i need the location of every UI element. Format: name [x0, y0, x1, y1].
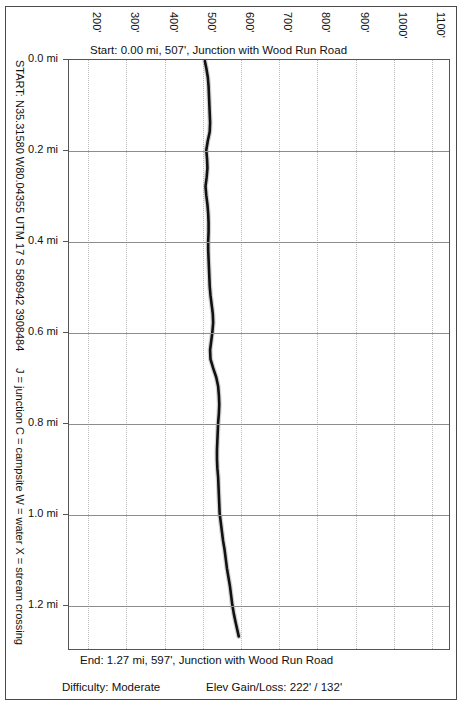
distance-gridline [69, 151, 449, 152]
distance-tick-label: 0.4 mi [28, 234, 58, 246]
distance-tick-mark [63, 605, 68, 606]
elevation-tick-label: 300' [129, 12, 141, 32]
distance-tick-label: 0.2 mi [28, 143, 58, 155]
elevation-gain-loss-label: Elev Gain/Loss: 222' / 132' [206, 681, 342, 693]
elevation-gridline [394, 60, 395, 649]
distance-gridline [69, 333, 449, 334]
distance-gridline [69, 242, 449, 243]
start-caption: Start: 0.00 mi, 507', Junction with Wood… [90, 44, 347, 56]
distance-gridline [69, 424, 449, 425]
distance-tick-label: 0.6 mi [28, 325, 58, 337]
end-caption: End: 1.27 mi, 597', Junction with Wood R… [80, 654, 333, 666]
distance-tick-mark [63, 332, 68, 333]
elevation-gridline [432, 60, 433, 649]
elevation-tick-label: 600' [244, 12, 256, 32]
elevation-tick-label: 700' [282, 12, 294, 32]
difficulty-label: Difficulty: Moderate [62, 681, 160, 693]
plot-area [68, 59, 450, 650]
elevation-gridline [241, 60, 242, 649]
elevation-gridline [126, 60, 127, 649]
distance-tick-label: 0.8 mi [28, 416, 58, 428]
elevation-profile-page: START: N35.31580 W80.04355 UTM 17 S 5869… [0, 0, 464, 712]
distance-tick-label: 1.0 mi [28, 507, 58, 519]
elevation-gridline [203, 60, 204, 649]
distance-tick-mark [63, 150, 68, 151]
elevation-tick-label: 1100' [435, 12, 447, 38]
distance-axis: 0.0 mi0.2 mi0.4 mi0.6 mi0.8 mi1.0 mi1.2 … [0, 0, 64, 712]
elevation-tick-label: 800' [320, 12, 332, 32]
elevation-tick-label: 1000' [397, 12, 409, 39]
elevation-gridline [165, 60, 166, 649]
distance-tick-mark [63, 59, 68, 60]
elevation-tick-label: 400' [168, 12, 180, 32]
distance-tick-label: 0.0 mi [28, 52, 58, 64]
elevation-tick-label: 500' [206, 12, 218, 32]
elevation-gridline [317, 60, 318, 649]
distance-tick-label: 1.2 mi [28, 598, 58, 610]
distance-gridline [69, 515, 449, 516]
elevation-gridline [88, 60, 89, 649]
elevation-gridline [356, 60, 357, 649]
elevation-tick-label: 200' [91, 12, 103, 32]
distance-gridline [69, 606, 449, 607]
elevation-trace-line [204, 60, 238, 636]
elevation-gridline [279, 60, 280, 649]
distance-tick-mark [63, 241, 68, 242]
distance-tick-mark [63, 423, 68, 424]
elevation-tick-label: 900' [359, 12, 371, 32]
distance-tick-mark [63, 514, 68, 515]
